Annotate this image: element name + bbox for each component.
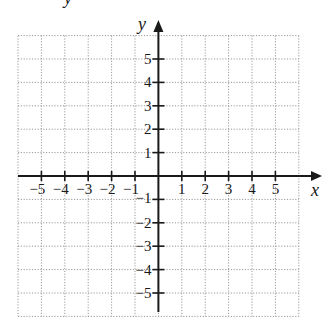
x-tick-label: 3 bbox=[225, 181, 233, 197]
y-tick-label: −1 bbox=[135, 190, 151, 206]
y-tick-label: −4 bbox=[135, 262, 151, 278]
x-axis-label: x bbox=[310, 180, 319, 200]
cropped-label-fragment: y bbox=[62, 0, 72, 8]
x-tick-label: 5 bbox=[272, 181, 280, 197]
x-tick-label: −3 bbox=[76, 181, 92, 197]
y-tick-label: 2 bbox=[144, 121, 152, 137]
x-tick-label: 2 bbox=[201, 181, 209, 197]
y-axis-label: y bbox=[136, 14, 146, 34]
y-tick-label: −3 bbox=[135, 238, 151, 254]
x-tick-label: −4 bbox=[53, 181, 69, 197]
y-tick-label: 5 bbox=[144, 51, 152, 67]
y-tick-label: 1 bbox=[144, 145, 152, 161]
y-axis-arrow-icon bbox=[153, 20, 163, 32]
y-tick-label: −5 bbox=[135, 285, 151, 301]
y-tick-label: 3 bbox=[144, 98, 152, 114]
coordinate-plane: y −5−4−3−2−112345 −5−4−3−2−112345 x y bbox=[0, 0, 336, 332]
y-tick-label: −2 bbox=[135, 215, 151, 231]
x-tick-label: 1 bbox=[178, 181, 186, 197]
y-tick-label: 4 bbox=[144, 74, 152, 90]
x-tick-label: −2 bbox=[100, 181, 116, 197]
x-tick-label: 4 bbox=[248, 181, 256, 197]
axes bbox=[18, 20, 322, 312]
x-tick-label: −5 bbox=[29, 181, 45, 197]
x-axis-ticks: −5−4−3−2−112345 bbox=[29, 171, 279, 197]
